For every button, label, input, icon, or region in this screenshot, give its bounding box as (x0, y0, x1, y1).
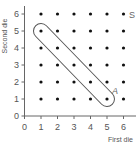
sample-point (39, 29, 42, 32)
sample-point (72, 46, 75, 49)
sample-point (105, 80, 108, 83)
x-tick-label: 4 (88, 122, 93, 132)
sample-point (39, 46, 42, 49)
sample-point (72, 80, 75, 83)
sample-point (72, 12, 75, 15)
sample-point (105, 97, 108, 100)
x-tick-label: 0 (22, 122, 27, 132)
x-tick-label: 2 (55, 122, 60, 132)
sample-point (122, 97, 125, 100)
sample-point (89, 46, 92, 49)
y-tick-label: 3 (14, 60, 19, 70)
x-tick-label: 3 (71, 122, 76, 132)
sample-point (105, 46, 108, 49)
sample-point (89, 63, 92, 66)
sample-point (105, 29, 108, 32)
sample-point (72, 97, 75, 100)
sample-point (39, 80, 42, 83)
sample-point (122, 29, 125, 32)
sample-point (122, 46, 125, 49)
sample-point (72, 29, 75, 32)
y-axis-title: Second die (1, 18, 8, 53)
sample-point (72, 63, 75, 66)
sample-point (39, 97, 42, 100)
x-axis-title: First die (108, 136, 133, 143)
sample-point (89, 97, 92, 100)
sample-point (105, 12, 108, 15)
x-tick-label: 6 (121, 122, 126, 132)
y-tick-label: 0 (14, 111, 19, 121)
event-label: A (111, 86, 118, 96)
sample-point (122, 63, 125, 66)
sample-point (105, 63, 108, 66)
dice-sample-space-diagram: 01234560123456 First die Second die S A (0, 0, 138, 151)
sample-point (56, 80, 59, 83)
sample-point (89, 80, 92, 83)
sample-point (122, 12, 125, 15)
sample-point (89, 29, 92, 32)
y-tick-label: 2 (14, 77, 19, 87)
x-tick-label: 5 (104, 122, 109, 132)
sample-point (122, 80, 125, 83)
sample-point (39, 12, 42, 15)
axis-ticks: 01234560123456 (14, 9, 126, 132)
y-tick-label: 1 (14, 94, 19, 104)
sample-point (89, 12, 92, 15)
y-tick-label: 5 (14, 26, 19, 36)
y-tick-label: 4 (14, 43, 19, 53)
sample-point (56, 97, 59, 100)
sample-point (56, 63, 59, 66)
sample-point (56, 46, 59, 49)
sample-point (56, 29, 59, 32)
sample-space-label: S (129, 10, 135, 20)
y-tick-label: 6 (14, 9, 19, 19)
sample-point (39, 63, 42, 66)
x-tick-label: 1 (38, 122, 43, 132)
sample-point (56, 12, 59, 15)
